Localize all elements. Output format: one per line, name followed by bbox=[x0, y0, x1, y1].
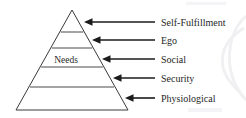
left-arrow-icon-security bbox=[113, 74, 155, 82]
tier-label-social: Social bbox=[161, 54, 186, 65]
left-arrow-icon-self-fulfillment bbox=[84, 18, 155, 26]
left-arrow-icon-social bbox=[102, 55, 155, 63]
tier-label-physiological: Physiological bbox=[161, 93, 216, 104]
tier-label-security: Security bbox=[161, 73, 194, 84]
tier-label-ego: Ego bbox=[161, 35, 177, 46]
callout-labels: Self-Fulfillment Ego Social Security Phy… bbox=[161, 17, 226, 104]
left-arrow-icon-ego bbox=[92, 36, 155, 44]
tier-label-self-fulfillment: Self-Fulfillment bbox=[161, 17, 226, 28]
left-arrow-icon-physiological bbox=[125, 94, 155, 102]
hierarchy-of-needs-figure: Needs S bbox=[0, 0, 246, 118]
pyramid-diagram-canvas: Needs S bbox=[0, 0, 246, 118]
pyramid-inner-label: Needs bbox=[54, 55, 78, 65]
